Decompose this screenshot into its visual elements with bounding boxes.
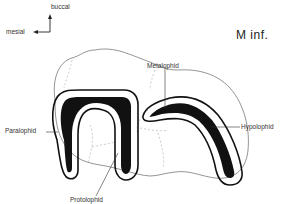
buccal-label: buccal bbox=[51, 4, 70, 11]
metalophid-label: Metalophid bbox=[147, 63, 179, 70]
mesial-label: mesial bbox=[6, 29, 25, 36]
hypolophid-label: Hypolophid bbox=[241, 124, 274, 131]
tooth-title: M inf. bbox=[236, 28, 268, 42]
orientation-arrows bbox=[33, 14, 52, 34]
protolophid-label: Protolophid bbox=[70, 197, 103, 204]
tooth-diagram: buccal mesial M inf. Metalophid Paraloph… bbox=[0, 0, 287, 204]
metalophid-hypolophid-enamel bbox=[150, 103, 235, 178]
paralophid-label: Paralophid bbox=[5, 128, 36, 135]
